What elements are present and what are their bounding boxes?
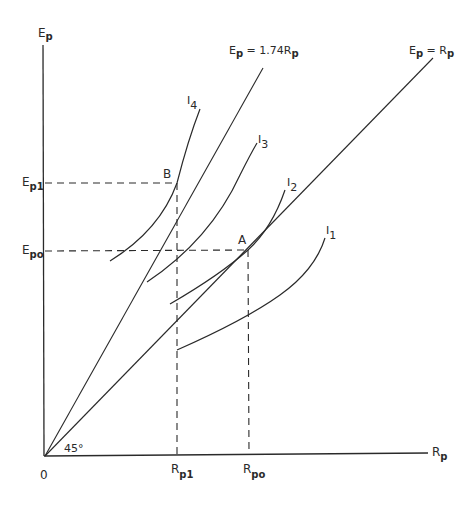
x-axis-label: Rp: [432, 445, 448, 462]
indifference-curve-i4: [110, 109, 200, 261]
indifference-diagram: Ep Rp 0 45° Ep = 1.74Rp Ep = Rp I4 I3 I2…: [0, 0, 470, 505]
i2-label: I2: [287, 176, 297, 194]
angle-label: 45°: [64, 442, 84, 455]
rp1-label: Rp1: [171, 462, 194, 480]
indifference-curve-i1: [177, 238, 325, 350]
ep1-label: Ep1: [22, 175, 44, 192]
i4-label: I4: [187, 94, 197, 112]
indifference-curve-i3: [147, 143, 257, 282]
point-b-label: B: [163, 167, 171, 181]
ray-1-74: [45, 68, 263, 456]
ray-1-74-label: Ep = 1.74Rp: [229, 44, 299, 59]
rp0-label: Rpo: [243, 462, 266, 480]
ep0-guide-horizontal: [45, 250, 248, 251]
ep0-label: Epo: [22, 243, 44, 260]
i1-label: I1: [326, 224, 336, 242]
point-a-label: A: [238, 233, 247, 247]
ray-45-label: Ep = Rp: [409, 44, 454, 59]
indifference-curve-i2: [170, 190, 285, 304]
rp0-guide-vertical: [248, 250, 249, 454]
origin-label: 0: [40, 468, 48, 482]
y-axis-label: Ep: [38, 26, 53, 42]
i3-label: I3: [258, 133, 268, 151]
x-axis: [44, 453, 428, 456]
